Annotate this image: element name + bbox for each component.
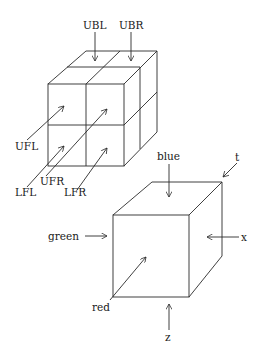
ufl-arrow (27, 106, 64, 140)
label-ubl: UBL (83, 19, 107, 31)
top-face (113, 182, 222, 215)
label-green: green (48, 230, 79, 242)
lfr-arrow (77, 148, 107, 190)
label-ufr: UFR (40, 175, 65, 187)
red-arrow (110, 257, 146, 300)
t-arrow (223, 163, 237, 177)
cube-diagram: UBL UBR UFL UFR LFL LFR blue t green x r… (0, 0, 259, 352)
label-lfl: LFL (15, 186, 36, 198)
cube-2x2 (48, 51, 157, 166)
label-x: x (241, 231, 247, 243)
label-t: t (235, 151, 240, 163)
front-face (113, 215, 189, 297)
label-lfr: LFR (64, 186, 87, 198)
label-ubr: UBR (119, 19, 145, 31)
label-red: red (92, 301, 110, 313)
label-blue: blue (157, 150, 180, 162)
cube-single (113, 182, 222, 297)
right-face (189, 182, 222, 297)
label-ufl: UFL (15, 140, 38, 152)
label-z: z (165, 331, 171, 343)
